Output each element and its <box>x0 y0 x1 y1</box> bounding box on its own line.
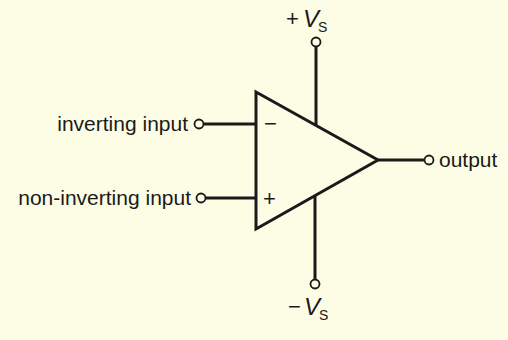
negative-supply-label: − V S <box>288 293 328 323</box>
negative-supply-sign: − <box>288 294 301 319</box>
non-inverting-sign: + <box>263 186 276 211</box>
inverting-input-label: inverting input <box>57 112 188 135</box>
positive-supply-terminal <box>312 38 321 47</box>
op-amp-diagram: − + inverting input non-inverting input … <box>0 0 508 340</box>
non-inverting-input-terminal <box>197 194 206 203</box>
negative-supply-terminal <box>311 280 320 289</box>
positive-supply-sign: + <box>286 6 299 31</box>
non-inverting-input-label: non-inverting input <box>18 186 191 209</box>
negative-supply-sub: S <box>319 307 328 323</box>
positive-supply-sub: S <box>318 19 327 35</box>
inverting-sign: − <box>264 111 277 136</box>
output-terminal <box>425 156 434 165</box>
inverting-input-terminal <box>195 120 204 129</box>
output-label: output <box>439 148 498 171</box>
positive-supply-label: + V S <box>286 5 327 35</box>
